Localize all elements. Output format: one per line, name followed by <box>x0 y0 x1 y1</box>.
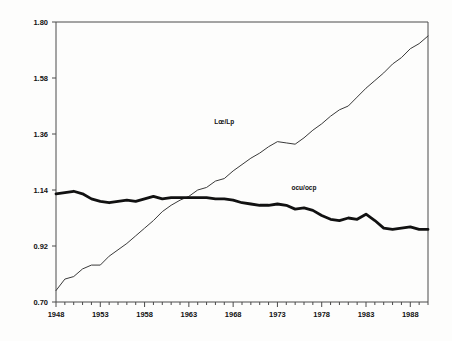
x-tick-label: 1988 <box>402 310 419 319</box>
y-tick-label: 1.80 <box>33 18 48 27</box>
x-tick-label: 1963 <box>181 310 198 319</box>
series-label-ocuocp: ocu/ocp <box>292 184 317 192</box>
x-tick-label: 1973 <box>269 310 286 319</box>
chart-figure: 1.801.581.361.140.920.70 194819531958196… <box>0 0 452 341</box>
y-tick-label: 1.36 <box>33 130 48 139</box>
x-tick-label: 1958 <box>136 310 153 319</box>
y-tick-label: 0.70 <box>33 298 48 307</box>
y-tick-label: 1.14 <box>33 186 48 195</box>
x-tick-label: 1983 <box>358 310 375 319</box>
x-tick-label: 1948 <box>48 310 65 319</box>
chart-background <box>0 0 452 341</box>
x-tick-label: 1968 <box>225 310 242 319</box>
y-tick-label: 1.58 <box>33 74 48 83</box>
x-tick-label: 1978 <box>313 310 330 319</box>
series-label-llp: Lœ/Lp <box>214 118 234 126</box>
y-tick-label: 0.92 <box>33 242 48 251</box>
x-tick-label: 1953 <box>92 310 109 319</box>
